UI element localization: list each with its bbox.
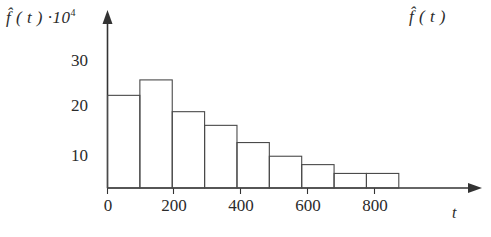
bar-bin-3 xyxy=(205,125,237,188)
x-tick-label-800: 800 xyxy=(352,197,398,214)
bar-bin-4 xyxy=(237,143,269,188)
y-axis-caption-text: f̂ ( t ) ·10 xyxy=(6,8,71,27)
x-tick-label-0: 0 xyxy=(85,197,131,214)
histogram-bars xyxy=(108,80,399,188)
x-tick-label-200: 200 xyxy=(151,197,197,214)
bar-bin-8 xyxy=(366,173,398,188)
bar-bin-7 xyxy=(334,173,366,188)
x-tick-label-600: 600 xyxy=(285,197,331,214)
y-axis-caption-exponent: 4 xyxy=(71,7,77,18)
x-axis-variable-label: t xyxy=(452,205,456,221)
histogram-figure: f̂ ( t ) ·104 f̂ ( t ) 30 20 10 0 200 40… xyxy=(0,0,491,237)
y-axis-caption: f̂ ( t ) ·104 xyxy=(6,8,76,26)
bar-bin-2 xyxy=(172,112,204,188)
bar-bin-0 xyxy=(108,95,140,188)
y-tick-label-10: 10 xyxy=(48,147,88,164)
bar-bin-6 xyxy=(302,165,334,188)
corner-caption: f̂ ( t ) xyxy=(409,8,446,25)
x-tick-label-400: 400 xyxy=(218,197,264,214)
x-axis-ticks xyxy=(108,188,375,194)
y-tick-label-30: 30 xyxy=(48,52,88,69)
y-tick-label-20: 20 xyxy=(48,97,88,114)
bar-bin-5 xyxy=(269,156,301,188)
bar-bin-1 xyxy=(140,80,172,188)
